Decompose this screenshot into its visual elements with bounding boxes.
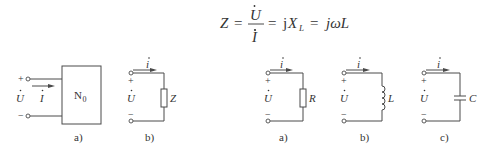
voltage-label: U xyxy=(264,92,273,104)
network-subscript: 0 xyxy=(83,95,87,104)
bottom-wire xyxy=(426,100,460,121)
caption-b: b) xyxy=(360,131,370,144)
formula-lhs: Z xyxy=(220,15,229,31)
voltage-label: U xyxy=(127,92,136,104)
caption-c: c) xyxy=(440,131,449,144)
minus-sign: − xyxy=(421,109,427,120)
bottom-wire xyxy=(346,110,382,121)
top-wire xyxy=(346,73,382,86)
plus-sign: + xyxy=(421,75,427,86)
element-label: Z xyxy=(170,92,177,104)
numerator-dot-icon xyxy=(254,5,256,7)
bottom-wire xyxy=(270,107,303,121)
top-wire xyxy=(270,73,303,89)
current-label: i xyxy=(437,58,440,70)
formula-X: X xyxy=(287,15,298,31)
circuit-capacitor: i + − U C c) xyxy=(420,57,477,144)
phasor-dot-icon xyxy=(424,90,426,92)
network-label: N xyxy=(74,89,82,101)
plus-sign: + xyxy=(265,75,271,86)
bottom-wire xyxy=(133,107,164,121)
impedance-element xyxy=(161,89,167,107)
formula-equals-2: = xyxy=(268,15,276,31)
top-wire xyxy=(426,73,460,96)
phasor-dot-icon xyxy=(20,90,22,92)
circuit-diagram: Z = U I = j X L = jωL + − N 0 U I a) xyxy=(0,0,490,150)
plus-sign: + xyxy=(18,73,24,84)
phasor-dot-icon xyxy=(42,90,44,92)
impedance-formula: Z = U I = j X L = jωL xyxy=(220,5,349,45)
inductor-coil-icon xyxy=(382,86,385,110)
voltage-label: U xyxy=(420,92,429,104)
element-label: C xyxy=(469,92,477,104)
circuit-resistor: i + − U R a) xyxy=(264,57,316,144)
phasor-dot-icon xyxy=(439,57,441,59)
formula-equals-3: = xyxy=(310,15,318,31)
current-label: i xyxy=(357,58,360,70)
minus-sign: − xyxy=(341,109,347,120)
current-arrow-head-icon xyxy=(48,84,55,88)
minus-sign: − xyxy=(128,109,134,120)
formula-rhs: jωL xyxy=(324,15,349,31)
element-label: L xyxy=(387,92,394,104)
voltage-label: U xyxy=(16,92,25,104)
terminal-top-icon xyxy=(26,77,30,81)
circuit-network-n0: + − N 0 U I a) xyxy=(16,66,101,144)
formula-j: j xyxy=(282,15,287,31)
caption-b: b) xyxy=(145,131,155,144)
formula-denominator: I xyxy=(251,29,258,45)
phasor-dot-icon xyxy=(131,90,133,92)
current-label: I xyxy=(39,92,45,104)
plus-sign: + xyxy=(341,75,347,86)
circuit-impedance: i + − U Z b) xyxy=(127,57,177,144)
caption-a: a) xyxy=(279,131,288,144)
resistor-element xyxy=(300,89,306,107)
minus-sign: − xyxy=(18,110,24,121)
phasor-dot-icon xyxy=(359,57,361,59)
current-arrow-head-icon xyxy=(286,68,293,72)
caption-a: a) xyxy=(74,131,83,144)
formula-X-subscript: L xyxy=(298,23,304,33)
current-arrow-head-icon xyxy=(150,68,157,72)
current-arrow-head-icon xyxy=(443,68,450,72)
phasor-dot-icon xyxy=(282,57,284,59)
phasor-dot-icon xyxy=(344,90,346,92)
phasor-dot-icon xyxy=(268,90,270,92)
current-label: i xyxy=(280,58,283,70)
top-wire xyxy=(133,73,164,89)
formula-equals-1: = xyxy=(234,15,242,31)
plus-sign: + xyxy=(128,75,134,86)
element-label: R xyxy=(308,92,316,104)
current-label: i xyxy=(146,58,149,70)
voltage-label: U xyxy=(340,92,349,104)
circuit-inductor: i + − U L b) xyxy=(340,57,394,144)
formula-numerator: U xyxy=(250,7,262,23)
terminal-bottom-icon xyxy=(26,114,30,118)
minus-sign: − xyxy=(265,109,271,120)
current-arrow-head-icon xyxy=(363,68,370,72)
phasor-dot-icon xyxy=(148,57,150,59)
